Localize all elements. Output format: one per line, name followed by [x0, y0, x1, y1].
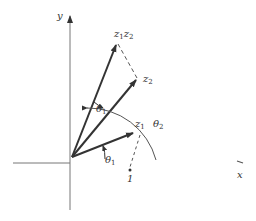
theta1-lower-label: θ1 — [105, 154, 116, 167]
x-axis-label: x — [237, 169, 243, 180]
y-axis-label: y — [56, 10, 63, 21]
one-point-dot — [129, 169, 132, 172]
z1z2-label: z1z2 — [113, 28, 134, 41]
svg-text:z1z2: z1z2 — [113, 28, 134, 41]
svg-text:θ1: θ1 — [96, 103, 107, 116]
svg-text:θ2: θ2 — [153, 118, 164, 131]
z1-label: z1 — [134, 118, 145, 131]
svg-text:θ1: θ1 — [105, 154, 116, 167]
one-point-label: 1 — [127, 173, 133, 184]
complex-multiplication-diagram: y x 1 z1z2 z2 z1 θ1 θ1 — [0, 0, 256, 221]
vector-z1z2 — [72, 45, 116, 157]
dashed-z1-to-one — [130, 135, 140, 167]
dashed-z1z2-to-z2 — [118, 44, 137, 78]
x-axis-label-group: x — [237, 161, 243, 180]
z2-label: z2 — [142, 73, 153, 86]
theta1-upper-label: θ1 — [96, 103, 107, 116]
svg-text:z2: z2 — [142, 73, 153, 86]
theta2-arc — [87, 108, 156, 160]
theta2-label: θ2 — [153, 118, 164, 131]
svg-text:z1: z1 — [134, 118, 145, 131]
x-axis-arrow-icon — [237, 161, 243, 163]
